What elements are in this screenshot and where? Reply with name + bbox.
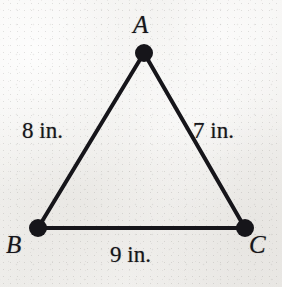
side-length-label-bc: 9 in. bbox=[110, 243, 151, 266]
vertex-label-b: B bbox=[6, 232, 21, 257]
vertex-label-c: C bbox=[249, 232, 266, 257]
side-length-label-ac: 7 in. bbox=[193, 119, 234, 142]
vertex-node-a bbox=[135, 44, 153, 62]
vertex-label-a: A bbox=[133, 12, 148, 37]
triangle-figure: A B C 8 in. 7 in. 9 in. bbox=[0, 0, 282, 287]
side-length-label-ab: 8 in. bbox=[22, 119, 63, 142]
vertex-node-b bbox=[29, 219, 47, 237]
